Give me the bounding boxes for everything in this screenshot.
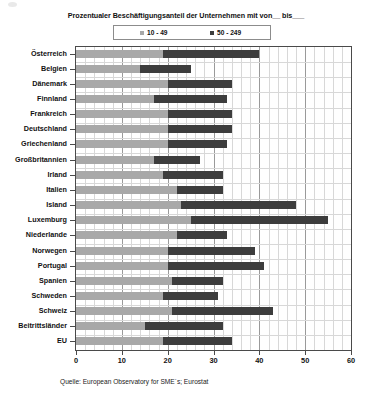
bar-row: [76, 62, 351, 78]
bar-row: [76, 319, 351, 335]
bar-segment[interactable]: [177, 186, 223, 194]
bar-segment[interactable]: [76, 110, 168, 118]
legend-item-50-249[interactable]: 50 - 249: [210, 29, 241, 36]
bar-segment[interactable]: [76, 322, 145, 330]
y-axis-label: Schweden: [31, 288, 67, 304]
y-axis-label: Norwegen: [32, 243, 67, 259]
bar-row: [76, 213, 351, 229]
bar-segment[interactable]: [76, 292, 163, 300]
x-axis-tick-label: 20: [164, 356, 172, 365]
bar-segment[interactable]: [76, 50, 163, 58]
x-axis-tick-label: 30: [209, 356, 217, 365]
bar-row: [76, 107, 351, 123]
bar-segment[interactable]: [168, 125, 232, 133]
bar-segment[interactable]: [177, 231, 227, 239]
y-axis-tick: [70, 326, 75, 327]
bar-segment[interactable]: [168, 140, 228, 148]
x-axis-tick-label: 0: [74, 356, 78, 365]
y-axis-tick: [70, 144, 75, 145]
chart-legend: 10 - 49 50 - 249: [113, 25, 271, 40]
x-axis-tick: [305, 351, 306, 355]
bar-segment[interactable]: [76, 247, 168, 255]
bar-row: [76, 274, 351, 290]
bar-row: [76, 153, 351, 169]
bar-row: [76, 122, 351, 138]
y-axis-tick: [70, 175, 75, 176]
bar-row: [76, 92, 351, 108]
legend-label: 50 - 249: [217, 29, 241, 36]
y-axis-label: Italien: [46, 182, 67, 198]
y-axis-tick: [70, 190, 75, 191]
y-axis-label: Belgien: [41, 61, 67, 77]
y-axis-tick: [70, 69, 75, 70]
y-axis-label: Irland: [47, 167, 67, 183]
x-axis-tick-label: 50: [301, 356, 309, 365]
bar-segment[interactable]: [154, 156, 200, 164]
x-axis-ticks: 0102030405060: [0, 351, 372, 373]
x-axis-tick-label: 10: [118, 356, 126, 365]
source-note: Quelle: European Observatory for SME´s; …: [60, 378, 208, 385]
bar-segment[interactable]: [163, 171, 223, 179]
legend-swatch-icon: [210, 31, 214, 35]
bar-segment[interactable]: [163, 50, 259, 58]
y-axis-tick: [70, 266, 75, 267]
y-axis-label: Finnland: [37, 91, 67, 107]
y-axis-label: Beitrittsländer: [18, 318, 67, 334]
y-axis-tick: [70, 281, 75, 282]
x-axis-tick: [259, 351, 260, 355]
bar-segment[interactable]: [76, 231, 177, 239]
bar-segment[interactable]: [76, 216, 191, 224]
bar-segment[interactable]: [76, 95, 154, 103]
y-axis-label: Schweiz: [39, 303, 67, 319]
bar-segment[interactable]: [76, 307, 172, 315]
bar-segment[interactable]: [172, 307, 273, 315]
bar-segment[interactable]: [168, 80, 232, 88]
bar-segment[interactable]: [76, 140, 168, 148]
bar-series-layer: [76, 47, 351, 350]
x-axis-tick: [214, 351, 215, 355]
legend-label: 10 - 49: [147, 29, 168, 36]
x-axis-tick: [122, 351, 123, 355]
bar-row: [76, 183, 351, 199]
bar-segment[interactable]: [163, 337, 232, 345]
bar-segment[interactable]: [145, 322, 223, 330]
bar-segment[interactable]: [168, 262, 264, 270]
bar-segment[interactable]: [76, 186, 177, 194]
bar-segment[interactable]: [163, 292, 218, 300]
bar-row: [76, 77, 351, 93]
bar-row: [76, 47, 351, 63]
bar-segment[interactable]: [76, 80, 168, 88]
y-axis-tick: [70, 205, 75, 206]
bar-segment[interactable]: [76, 125, 168, 133]
y-axis-label: Portugal: [38, 258, 67, 274]
bar-segment[interactable]: [168, 110, 232, 118]
bar-segment[interactable]: [76, 171, 163, 179]
legend-item-10-49[interactable]: 10 - 49: [140, 29, 168, 36]
bar-segment[interactable]: [172, 277, 222, 285]
bar-row: [76, 334, 351, 350]
y-axis-label: Spanien: [39, 273, 67, 289]
x-axis-tick: [351, 351, 352, 355]
y-axis-label: Dänemark: [32, 76, 67, 92]
bar-row: [76, 259, 351, 275]
bar-segment[interactable]: [191, 216, 329, 224]
y-axis-label: EU: [57, 333, 67, 349]
y-axis-tick: [70, 54, 75, 55]
y-axis-tick: [70, 114, 75, 115]
plot-area: [75, 46, 352, 351]
bar-segment[interactable]: [76, 156, 154, 164]
bar-segment[interactable]: [76, 201, 181, 209]
bar-segment[interactable]: [140, 65, 190, 73]
bar-segment[interactable]: [76, 262, 168, 270]
y-axis-category-labels: ÖsterreichBelgienDänemarkFinnlandFrankre…: [0, 46, 72, 351]
bar-segment[interactable]: [76, 65, 140, 73]
bar-segment[interactable]: [76, 277, 172, 285]
bar-segment[interactable]: [76, 337, 163, 345]
x-axis-tick: [76, 351, 77, 355]
y-axis-label: Luxemburg: [28, 212, 67, 228]
bar-segment[interactable]: [181, 201, 296, 209]
y-axis-tick: [70, 311, 75, 312]
bar-segment[interactable]: [154, 95, 227, 103]
bar-segment[interactable]: [168, 247, 255, 255]
y-axis-tick: [70, 129, 75, 130]
